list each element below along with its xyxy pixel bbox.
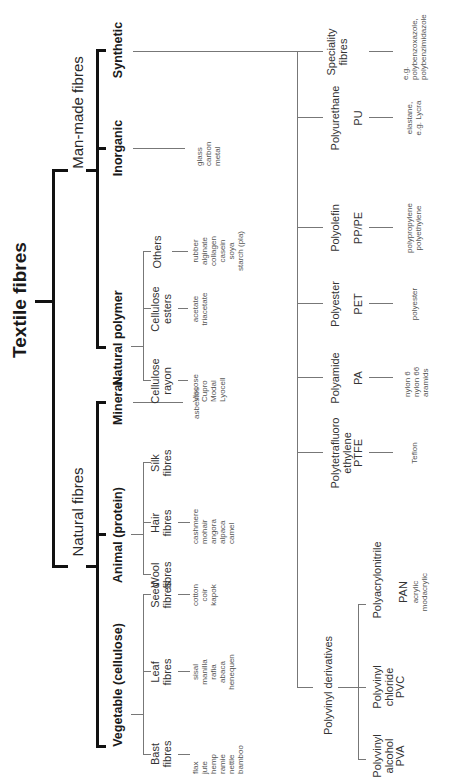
polyamide-example-stub	[369, 377, 393, 378]
manmade-fibres-label: Man-made fibres	[70, 50, 86, 175]
pu-abbr: PU	[353, 98, 365, 138]
polyester-examples: polyester	[411, 279, 420, 329]
synthetic-line	[133, 51, 297, 52]
manmade-stub	[52, 169, 68, 172]
wool-fibres-label: Wool fibres	[150, 557, 173, 593]
rayon-example-stub	[178, 380, 188, 381]
silk-fibres-label: Silk fibres	[150, 445, 173, 481]
synthetic-spine	[297, 51, 298, 688]
vegetable-stub	[96, 745, 106, 748]
vegetable-connector	[143, 595, 144, 755]
inorganic-label: Inorganic	[112, 111, 125, 185]
polyvinyl-derivatives-label: Polyvinyl derivatives	[323, 637, 335, 735]
animal-stub-2	[131, 534, 143, 535]
pva-label: Polyvinyl alcohol PVA	[372, 732, 407, 780]
natural-polymer-stub	[96, 346, 106, 349]
esters-example-stub	[178, 308, 188, 309]
animal-connector	[143, 463, 144, 575]
ptfe-example-stub	[369, 452, 393, 453]
main-connector	[52, 169, 55, 568]
leaf-fibres-label: Leaf fibres	[150, 654, 173, 690]
pet-abbr: PET	[353, 284, 365, 324]
pan-examples: acrylic modacrylic	[412, 564, 430, 620]
rayon-examples: Viscose Cupro Modal Lyocell	[192, 358, 228, 402]
inorganic-stub	[96, 147, 106, 150]
polyacrylonitrile-label: Polyacrylonitrile	[372, 535, 384, 625]
polyamide-label: Polyamide	[330, 338, 342, 418]
polyolefin-examples: polypropylene polyethylene	[406, 196, 424, 260]
root-title: Textile fibres	[10, 235, 30, 365]
bast-example-stub	[178, 754, 190, 755]
mineral-stub	[96, 401, 106, 404]
inorganic-example-line	[133, 148, 185, 149]
cellulose-esters-label: Cellulose esters	[150, 284, 173, 334]
others-examples: rubber alginate collagen casein soya sta…	[192, 222, 246, 280]
synthetic-stub	[96, 49, 106, 52]
natural-polymer-stub-2	[131, 346, 143, 347]
speciality-stub	[297, 51, 323, 52]
ptfe-examples: Teflon	[411, 433, 420, 473]
hair-fibres-label: Hair fibres	[150, 505, 173, 541]
polyvinyl-connector	[358, 605, 359, 760]
speciality-example-stub	[369, 51, 393, 52]
speciality-fibres-label: Speciality fibres	[326, 17, 349, 87]
polyamide-stub	[297, 377, 323, 378]
inorganic-examples: glass carbon metal	[196, 130, 223, 166]
natural-connector	[96, 402, 99, 748]
pvc-stub	[358, 687, 366, 688]
pvc-label: Polyvinyl chloride PVC	[372, 663, 407, 711]
natural-polymer-connector	[143, 252, 144, 381]
pva-stub	[358, 759, 366, 760]
polyolefin-label: Polyolefin	[330, 188, 342, 268]
vegetable-label: Vegetable (cellulose)	[112, 610, 125, 760]
natural-polymer-label: Natural polymer	[112, 278, 125, 398]
pan-stub	[358, 604, 366, 605]
polyolefin-stub	[297, 227, 323, 228]
ptfe-label: Polytetrafluoro ethylene PTFE	[330, 408, 365, 498]
seed-example-stub	[178, 594, 190, 595]
others-label: Others	[152, 227, 164, 277]
polyolefin-example-stub	[369, 227, 393, 228]
pa-abbr: PA	[353, 358, 365, 398]
synthetic-label: Synthetic	[112, 14, 125, 86]
pan-abbr: PAN	[398, 574, 410, 610]
polyvinyl-stub-2	[338, 687, 358, 688]
polyurethane-example-stub	[369, 117, 393, 118]
hair-example-stub	[178, 522, 190, 523]
cellulose-rayon-label: Cellulose rayon	[150, 356, 173, 406]
animal-stub	[96, 533, 106, 536]
manmade-connector	[96, 50, 99, 349]
bast-examples: flax jute hemp ramie nettle bamboo	[192, 724, 246, 774]
natural-fibres-label: Natural fibres	[70, 442, 86, 582]
leaf-examples: sisal manilla rafia abaca henequen	[192, 646, 237, 698]
natural-stub	[52, 565, 68, 568]
leaf-example-stub	[178, 671, 190, 672]
others-example-stub	[172, 251, 188, 252]
esters-examples: acetate triacetate	[192, 286, 210, 332]
animal-label: Animal (protein)	[112, 470, 125, 600]
polyurethane-stub	[297, 117, 323, 118]
pp-pe-abbr: PP/PE	[353, 203, 365, 253]
others-stub	[143, 251, 151, 252]
hair-examples: cashmere mohair angora alpaca camel	[192, 494, 237, 544]
bast-fibres-label: Bast fibres	[150, 736, 173, 772]
polyester-example-stub	[369, 303, 393, 304]
polyvinyl-stub	[297, 687, 313, 688]
vegetable-stub-2	[131, 714, 143, 715]
speciality-examples: e.g. polybenzoxazole, polybenzimidazole	[402, 0, 429, 80]
ptfe-stub	[297, 452, 323, 453]
polyamide-examples: nylon 6 nylon 66 aramids	[404, 353, 431, 397]
polyester-label: Polyester	[330, 264, 342, 344]
polyurethane-examples: elastane, e.g. Lycra	[406, 90, 424, 146]
seed-examples: cotton coir kapok	[192, 572, 219, 618]
polyester-stub	[297, 303, 323, 304]
root-stub	[35, 300, 53, 303]
